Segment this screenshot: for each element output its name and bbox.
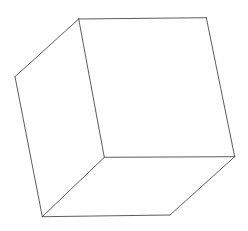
cube-edge-right-to-inner — [104, 157, 234, 158]
cube-diagram — [0, 0, 248, 231]
